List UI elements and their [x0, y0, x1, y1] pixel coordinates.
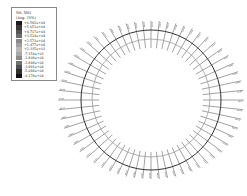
tick-value-label [88, 42, 92, 45]
tick-value-label [133, 172, 134, 177]
moment-tick [203, 90, 244, 94]
tick-value-label [236, 82, 241, 83]
moment-diagram-ticks [58, 21, 244, 179]
undeformed-ring [81, 30, 221, 170]
tick-value-label [196, 164, 199, 168]
tick-value-label [210, 155, 214, 158]
moment-tick [190, 42, 216, 65]
moment-tick [59, 90, 100, 94]
moment-tick [143, 152, 146, 179]
tick-value-label [101, 162, 104, 166]
deformed-ring [92, 39, 210, 157]
tick-value-label [144, 22, 145, 27]
tick-value-label [75, 55, 79, 58]
moment-tick [182, 142, 201, 168]
moment-tick [64, 116, 102, 128]
tick-value-label [188, 167, 191, 171]
moment-tick [162, 22, 168, 49]
tick-value-label [218, 50, 222, 53]
tick-value-label [198, 34, 201, 38]
tick-value-label [111, 29, 114, 33]
tick-value-label [165, 172, 166, 177]
tick-value-label [223, 143, 227, 146]
tick-value-label [157, 173, 158, 178]
tick-value-label [95, 37, 98, 41]
tick-value-label [60, 89, 65, 90]
tick-value-label [60, 108, 65, 109]
tick-value-label [167, 23, 168, 28]
moment-tick [186, 37, 208, 62]
moment-tick [94, 139, 116, 164]
tick-value-label [81, 48, 85, 51]
tick-value-label [103, 32, 106, 36]
moment-tick [134, 22, 140, 49]
tick-value-label [109, 166, 112, 170]
tick-value-label [94, 158, 97, 162]
tick-value-label [190, 30, 193, 34]
moment-tick [87, 42, 113, 65]
tick-value-label [203, 160, 206, 164]
tick-value-label [86, 153, 90, 156]
tick-value-label [217, 149, 221, 152]
tick-value-label [142, 173, 143, 178]
tick-value-label [212, 44, 216, 47]
tick-value-label [62, 80, 67, 81]
moment-tick [186, 139, 208, 164]
moment-tick [167, 24, 176, 51]
moment-tick [74, 55, 106, 74]
tick-value-label [237, 110, 242, 111]
moment-tick [94, 37, 116, 62]
tick-value-label [74, 141, 78, 144]
tick-value-label [61, 117, 66, 118]
tick-value-label [235, 119, 240, 120]
tick-value-label [205, 38, 208, 42]
tick-value-label [136, 23, 137, 28]
moment-tick [200, 116, 238, 128]
moment-tick [87, 135, 113, 158]
moment-tick [156, 21, 159, 48]
moment-tick [126, 24, 135, 51]
section-moment-plot [0, 0, 247, 196]
tick-value-label [80, 147, 84, 150]
moment-tick [102, 142, 121, 168]
tick-value-label [160, 22, 161, 27]
tick-value-label [237, 92, 242, 93]
moment-tick [190, 135, 216, 158]
moment-tick [196, 55, 228, 74]
tick-value-label [224, 57, 228, 60]
